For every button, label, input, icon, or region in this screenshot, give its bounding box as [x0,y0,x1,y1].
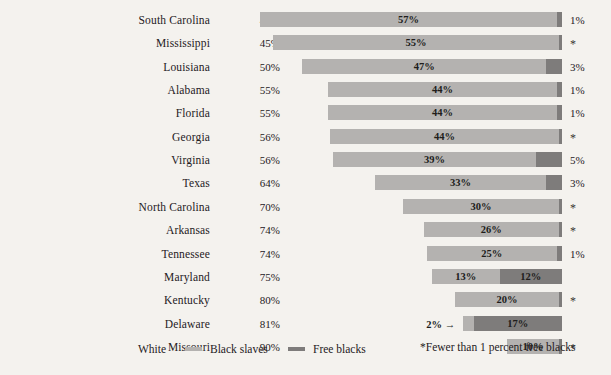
free-blacks-percentage-label: 3% [570,176,600,191]
free-blacks-percentage-label: 1% [570,83,600,98]
table-row: North Carolina70%30%* [0,198,611,222]
legend-label-white: White [138,342,166,357]
table-row: Kentucky80%20%* [0,291,611,315]
bar-label-black-slaves: 13% [432,269,500,284]
bar-track: 25% [42,246,562,261]
legend-swatch-black-slaves [185,347,202,351]
bar-segment-free-blacks [536,152,562,167]
bar-segment-free-blacks [546,175,562,190]
table-row: Georgia56%44%* [0,128,611,152]
bar-track: 57% [42,12,562,27]
bar-segment-free-blacks [559,129,562,144]
bar-track: 26% [42,222,562,237]
bar-label-free-blacks: 17% [474,316,562,331]
bar-label-black-slaves: 30% [403,199,559,214]
bar-track: 47% [42,59,562,74]
bar-segment-free-blacks [557,246,562,261]
bar-label-black-slaves-text: 2% [426,319,442,330]
bar-track: 20% [42,292,562,307]
bar-segment-free-blacks [557,12,562,27]
table-row: Delaware81%2% →17% [0,315,611,339]
legend-label-free-blacks: Free blacks [313,342,366,357]
free-blacks-percentage-label: 5% [570,153,600,168]
slave-population-chart: South Carolina42%57%1%Mississippi45%55%*… [0,0,611,375]
table-row: Florida55%44%1% [0,104,611,128]
bar-label-black-slaves: 20% [455,292,559,307]
bar-label-black-slaves: 55% [273,35,559,50]
bar-track: 33% [42,175,562,190]
bar-label-black-slaves: 44% [328,82,557,97]
table-row: Tennessee74%25%1% [0,245,611,269]
legend-label-black-slaves: Black slaves [210,342,268,357]
bar-label-black-slaves: 26% [424,222,559,237]
bar-segment-free-blacks [557,82,562,97]
table-row: Louisiana50%47%3% [0,58,611,82]
bar-label-black-slaves-outside: 2% → [409,317,455,332]
free-blacks-asterisk: * [570,293,600,310]
free-blacks-asterisk: * [570,130,600,147]
free-blacks-percentage-label: 1% [570,247,600,262]
bar-label-black-slaves: 44% [328,105,557,120]
bar-track: 30% [42,199,562,214]
free-blacks-percentage-label: 3% [570,60,600,75]
bar-label-black-slaves: 44% [330,129,559,144]
bar-segment-black-slaves [463,316,473,331]
free-blacks-asterisk: * [570,36,600,53]
bar-track: 44% [42,105,562,120]
table-row: Maryland75%13%12% [0,268,611,292]
bar-track: 2% →17% [42,316,562,331]
table-row: Mississippi45%55%* [0,34,611,58]
free-blacks-asterisk: * [570,200,600,217]
bar-label-free-blacks: 12% [500,269,562,284]
bar-segment-free-blacks [559,199,562,214]
bar-segment-free-blacks [546,59,562,74]
bar-label-black-slaves: 25% [427,246,557,261]
arrow-right-icon: → [442,319,455,330]
table-row: Texas64%33%3% [0,174,611,198]
free-blacks-percentage-label: 1% [570,106,600,121]
bar-track: 44% [42,82,562,97]
free-blacks-asterisk: * [570,223,600,240]
table-row: Virginia56%39%5% [0,151,611,175]
table-row: Arkansas74%26%* [0,221,611,245]
bar-segment-free-blacks [559,222,562,237]
bar-segment-free-blacks [557,105,562,120]
bar-segment-free-blacks [559,35,562,50]
bar-track: 13%12% [42,269,562,284]
bar-track: 44% [42,129,562,144]
bar-segment-free-blacks [559,292,562,307]
bar-track: 55% [42,35,562,50]
bar-label-black-slaves: 57% [260,12,556,27]
bar-track: 39% [42,152,562,167]
table-row: South Carolina42%57%1% [0,11,611,35]
legend-swatch-free-blacks [288,347,305,351]
table-row: Alabama55%44%1% [0,81,611,105]
free-blacks-percentage-label: 1% [570,13,600,28]
bar-label-black-slaves: 47% [302,59,546,74]
footnote-fewer-than-one-percent: *Fewer than 1 percent free blacks [420,340,576,355]
bar-label-black-slaves: 33% [375,175,547,190]
bar-label-black-slaves: 39% [333,152,536,167]
